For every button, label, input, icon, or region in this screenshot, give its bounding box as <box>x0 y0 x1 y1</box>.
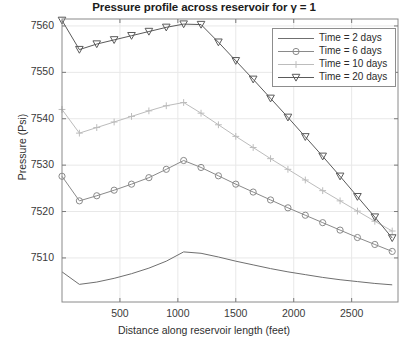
legend-item[interactable]: Time = 2 days <box>276 31 392 44</box>
legend-item[interactable]: Time = 6 days <box>276 44 392 57</box>
y-tick-label: 7510 <box>10 251 54 263</box>
legend-sample-circle <box>276 44 316 57</box>
chart-legend: Time = 2 daysTime = 6 daysTime = 10 days… <box>272 28 396 87</box>
legend-label: Time = 20 days <box>316 71 387 82</box>
x-tick-label: 500 <box>90 307 150 319</box>
legend-sample-triangle-down <box>276 70 316 83</box>
legend-label: Time = 10 days <box>316 58 387 69</box>
y-tick-label: 7550 <box>10 65 54 77</box>
x-tick-label: 1000 <box>148 307 208 319</box>
legend-sample-plus <box>276 57 316 70</box>
legend-label: Time = 6 days <box>316 45 382 56</box>
legend-label: Time = 2 days <box>316 32 382 43</box>
x-tick-label: 2000 <box>264 307 324 319</box>
y-tick-label: 7560 <box>10 19 54 31</box>
legend-item[interactable]: Time = 10 days <box>276 57 392 70</box>
y-axis-label: Pressure (Psi) <box>16 77 28 217</box>
x-tick-label: 2500 <box>322 307 382 319</box>
x-tick-label: 1500 <box>206 307 266 319</box>
legend-sample-none <box>276 31 316 44</box>
chart-figure: Pressure profile across reservoir for γ … <box>0 0 408 344</box>
legend-item[interactable]: Time = 20 days <box>276 70 392 83</box>
data-point-marker-plus <box>293 61 300 68</box>
x-axis-label: Distance along reservoir length (feet) <box>0 324 408 336</box>
